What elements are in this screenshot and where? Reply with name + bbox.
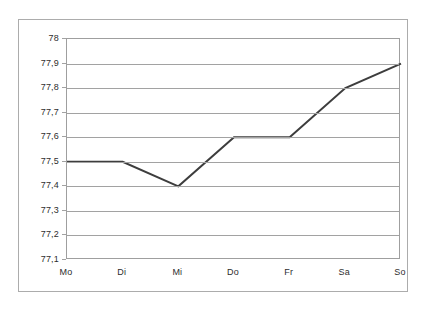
y-axis-tick xyxy=(62,38,66,39)
gridline xyxy=(67,235,399,236)
y-axis-tick-label: 77,6 xyxy=(0,131,59,141)
y-axis-tick-label: 77,3 xyxy=(0,205,59,215)
gridline xyxy=(67,64,399,65)
y-axis-tick-label: 77,9 xyxy=(0,58,59,68)
y-axis-tick xyxy=(62,185,66,186)
y-axis-tick-label: 77,2 xyxy=(0,229,59,239)
y-axis-tick xyxy=(62,161,66,162)
x-axis-tick-label: Mi xyxy=(172,267,182,277)
gridline xyxy=(67,211,399,212)
y-axis-tick xyxy=(62,112,66,113)
plot-area xyxy=(66,38,400,259)
y-axis-tick xyxy=(62,210,66,211)
x-axis-tick-label: So xyxy=(394,267,405,277)
line-series xyxy=(67,39,401,260)
y-axis-tick xyxy=(62,136,66,137)
chart-figure: 7877,977,877,777,677,577,477,377,277,1 M… xyxy=(0,0,426,310)
x-axis-tick-label: Sa xyxy=(339,267,350,277)
gridline xyxy=(67,162,399,163)
x-axis-tick-label: Fr xyxy=(284,267,293,277)
y-axis-tick xyxy=(62,87,66,88)
y-axis-tick-label: 77,5 xyxy=(0,156,59,166)
gridline xyxy=(67,137,399,138)
y-axis-tick-label: 77,7 xyxy=(0,107,59,117)
gridline xyxy=(67,186,399,187)
y-axis-tick-label: 77,8 xyxy=(0,82,59,92)
y-axis-tick xyxy=(62,234,66,235)
gridline xyxy=(67,88,399,89)
y-axis-tick-label: 78 xyxy=(0,33,59,43)
y-axis-tick-label: 77,1 xyxy=(0,254,59,264)
x-axis-tick-label: Mo xyxy=(60,267,73,277)
y-axis-tick-label: 77,4 xyxy=(0,180,59,190)
x-axis-tick-label: Do xyxy=(227,267,239,277)
y-axis-tick xyxy=(62,63,66,64)
x-axis-tick-label: Di xyxy=(117,267,126,277)
gridline xyxy=(67,113,399,114)
y-axis-tick xyxy=(62,259,66,260)
